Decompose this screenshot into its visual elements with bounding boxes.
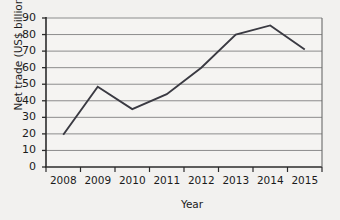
x-axis-title: Year bbox=[48, 198, 336, 210]
x-tick-label: 2015 bbox=[285, 175, 325, 186]
y-tick-label: 20 bbox=[10, 128, 36, 139]
y-tick-label: 0 bbox=[10, 161, 36, 172]
plot-area-background bbox=[46, 18, 322, 167]
line-chart: 0102030405060708090 20082009201020112012… bbox=[0, 0, 340, 220]
chart-canvas bbox=[0, 0, 340, 220]
y-tick-label: 10 bbox=[10, 144, 36, 155]
y-axis-title: Net trade (US$ billion) bbox=[12, 0, 24, 122]
